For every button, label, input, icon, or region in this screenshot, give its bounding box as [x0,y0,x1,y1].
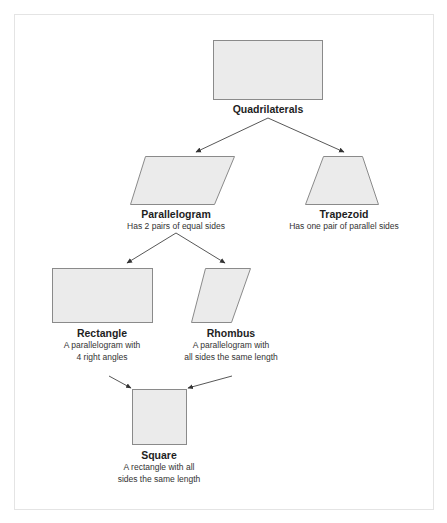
node-description-line2: sides the same length [118,474,201,486]
arrow-parallelogram-to-rectangle [127,233,176,263]
node-trapezoid: Trapezoid Has one pair of parallel sides [289,208,399,233]
square-shape [133,390,187,445]
node-rectangle: Rectangle A parallelogram with 4 right a… [64,327,141,363]
node-title: Square [118,449,201,462]
quadrilateral-hierarchy-diagram [0,0,447,523]
node-description-line1: A parallelogram with [184,340,278,352]
arrow-rectangle-to-square [109,376,131,388]
node-description-line2: all sides the same length [184,352,278,364]
node-title: Trapezoid [289,208,399,221]
node-rhombus: Rhombus A parallelogram with all sides t… [184,327,278,363]
node-title: Parallelogram [127,208,225,221]
node-title: Rectangle [64,327,141,340]
rhombus-shape [192,269,251,323]
arrow-parallelogram-to-rhombus [176,233,225,263]
node-title: Quadrilaterals [233,103,304,116]
node-description-line2: 4 right angles [64,352,141,364]
node-description: Has one pair of parallel sides [289,221,399,233]
node-square: Square A rectangle with all sides the sa… [118,449,201,485]
parallelogram-shape [131,157,235,205]
node-description: Has 2 pairs of equal sides [127,221,225,233]
rectangle-shape [53,269,153,323]
node-quadrilaterals: Quadrilaterals [233,103,304,116]
node-parallelogram: Parallelogram Has 2 pairs of equal sides [127,208,225,233]
trapezoid-shape [306,157,379,205]
arrow-quadrilaterals-to-trapezoid [268,118,344,152]
quadrilaterals-shape [214,41,323,100]
node-description-line1: A rectangle with all [118,462,201,474]
node-title: Rhombus [184,327,278,340]
arrow-rhombus-to-square [188,376,232,388]
arrow-quadrilaterals-to-parallelogram [196,118,268,152]
node-description-line1: A parallelogram with [64,340,141,352]
